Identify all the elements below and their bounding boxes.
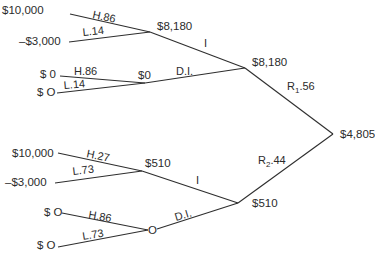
- upper-di-low-label: L.14: [63, 77, 85, 91]
- upper-i-low-branch: [69, 32, 150, 42]
- lower-di-low-value: $ O: [37, 239, 56, 251]
- lower-di-label: D.I.: [173, 206, 193, 222]
- lower-di-low-label: L.73: [81, 227, 104, 242]
- upper-di-high-label: H.86: [74, 65, 97, 77]
- upper-i-branch: [150, 32, 245, 68]
- lower-i-high-label: H.27: [86, 147, 111, 164]
- lower-i-high-value: $10,000: [12, 147, 54, 159]
- lower-i-node-value: $510: [145, 157, 171, 169]
- decision-tree-diagram: $4,805 R1.56 R2.44 $8,180 I D.I. $8,180 …: [0, 0, 375, 262]
- upper-i-high-label: H.86: [92, 8, 117, 25]
- r2-node-value: $510: [252, 197, 278, 209]
- branch-r2: [238, 134, 333, 203]
- upper-i-low-value: –$3,000: [19, 35, 61, 47]
- upper-di-label: D.I.: [176, 65, 193, 77]
- upper-i-low-label: L.14: [82, 24, 105, 38]
- upper-i-high-value: $10,000: [2, 4, 44, 16]
- lower-di-node-value: O: [148, 224, 157, 236]
- upper-di-node-value: $0: [138, 69, 151, 81]
- lower-di-branch: [157, 203, 238, 229]
- root-branches: [238, 68, 333, 203]
- r1-node-value: $8,180: [252, 56, 287, 68]
- lower-i-low-value: –$3,000: [5, 176, 47, 188]
- lower-i-branch: [142, 171, 238, 203]
- branch-r2-label: R2.44: [258, 154, 286, 169]
- lower-di-high-label: H.86: [88, 208, 113, 224]
- upper-di-branch: [145, 68, 245, 83]
- lower-i-label: I: [196, 174, 199, 186]
- upper-i-label: I: [204, 37, 207, 49]
- lower-di-high-value: $ O: [44, 206, 63, 218]
- branch-r1: [245, 68, 333, 134]
- root-value: $4,805: [340, 128, 375, 140]
- upper-i-node-value: $8,180: [157, 20, 192, 32]
- lower-i-low-branch: [55, 171, 142, 183]
- upper-di-high-value: $ 0: [40, 68, 56, 80]
- lower-i-low-label: L.73: [72, 162, 95, 177]
- branch-r1-label: R1.56: [287, 80, 315, 95]
- upper-di-low-value: $ O: [37, 86, 56, 98]
